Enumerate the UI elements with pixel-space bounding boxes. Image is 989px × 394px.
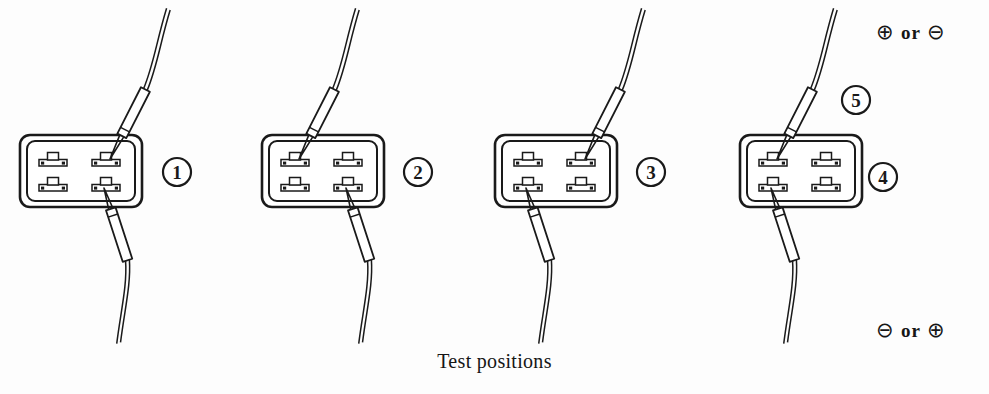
callout-4-label: 4 <box>878 167 888 188</box>
connector-3-lower-probe <box>526 188 554 344</box>
polarity-bottom-conjunction: or <box>901 320 921 341</box>
connector-2 <box>262 135 384 207</box>
connector-housing <box>740 135 862 207</box>
callout-2-label: 2 <box>413 162 423 183</box>
figure-canvas: 12345 ⊕ or ⊖ ⊖ or ⊕ Test positions <box>0 0 989 394</box>
polarity-top-conjunction: or <box>901 22 921 43</box>
callout-5: 5 <box>842 86 870 114</box>
callout-3: 3 <box>637 158 665 186</box>
polarity-label-top: ⊕ or ⊖ <box>876 20 946 44</box>
connector-3 <box>495 135 617 207</box>
figure-caption: Test positions <box>0 350 989 373</box>
connector-4 <box>740 135 862 207</box>
connector-2-lower-probe <box>346 188 374 344</box>
callout-2: 2 <box>404 158 432 186</box>
callout-1: 1 <box>163 158 191 186</box>
probes-layer <box>104 8 837 343</box>
connector-3-upper-probe <box>585 8 645 159</box>
polarity-label-bottom: ⊖ or ⊕ <box>876 318 946 342</box>
plus-circle-icon: ⊕ <box>876 20 895 44</box>
minus-circle-icon: ⊖ <box>876 318 895 342</box>
callout-3-label: 3 <box>646 162 656 183</box>
connector-housing <box>20 135 142 207</box>
connector-1-upper-probe <box>110 8 170 159</box>
connectors-layer <box>20 135 862 207</box>
callout-5-label: 5 <box>851 90 861 111</box>
callout-1-label: 1 <box>172 162 182 183</box>
test-positions-diagram: 12345 <box>0 0 989 394</box>
connector-1 <box>20 135 142 207</box>
connector-4-lower-probe <box>771 188 799 344</box>
connector-housing <box>262 135 384 207</box>
callout-4: 4 <box>869 163 897 191</box>
minus-circle-icon: ⊖ <box>927 20 946 44</box>
plus-circle-icon: ⊕ <box>927 318 946 342</box>
connector-1-lower-probe <box>104 188 132 344</box>
connector-housing <box>495 135 617 207</box>
